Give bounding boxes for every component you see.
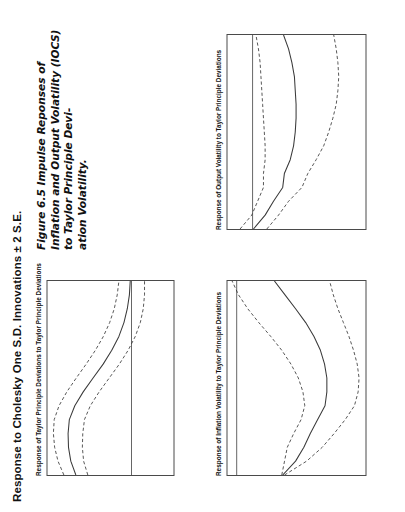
y-tickmark xyxy=(356,229,357,230)
x-tickmark xyxy=(173,378,174,379)
x-tickmark xyxy=(173,294,174,295)
y-tickmark xyxy=(335,229,336,230)
plot-area-0: .4.3.2.1.0-.1-.22468101214 xyxy=(46,280,174,476)
y-tickmark xyxy=(131,475,132,476)
x-tickmark xyxy=(365,433,366,434)
x-tickmark xyxy=(365,159,366,160)
x-tickmark xyxy=(365,104,366,105)
x-tickmark xyxy=(365,322,366,323)
figure-caption-line-1: Figure 6.5 Impulse Reponses of Inflation… xyxy=(34,14,75,250)
series-line-1 xyxy=(53,281,119,475)
series-line-2 xyxy=(284,281,359,475)
x-tickmark xyxy=(365,461,366,462)
series-line-0 xyxy=(68,281,130,475)
x-tickmark xyxy=(173,322,174,323)
x-tickmark xyxy=(365,215,366,216)
y-tickmark xyxy=(47,475,48,476)
x-tickmark xyxy=(365,378,366,379)
y-tickmark xyxy=(252,229,253,230)
y-tickmark xyxy=(305,475,306,476)
series-line-1 xyxy=(240,35,265,229)
series-line-0 xyxy=(253,35,296,229)
chart-title-2: Response of Output Volatility to Taylor … xyxy=(214,50,221,230)
y-tickmark xyxy=(231,229,232,230)
x-tickmark xyxy=(365,294,366,295)
x-tickmark xyxy=(173,433,174,434)
chart-panel-output-volatility: Response of Output Volatility to Taylor … xyxy=(214,26,392,254)
x-tickmark xyxy=(173,350,174,351)
y-tickmark xyxy=(273,229,274,230)
figure-caption-line-2: ation Volatility. xyxy=(75,14,89,250)
figure-caption: Figure 6.5 Impulse Reponses of Inflation… xyxy=(34,14,88,250)
y-tickmark xyxy=(328,475,329,476)
chart-canvas-0 xyxy=(47,281,173,475)
y-tickmark xyxy=(152,475,153,476)
chart-title-1: Response of Inflation Volatility to Tayl… xyxy=(214,292,221,476)
chart-panel-taylor-principle-deviations: Response of Taylor Principle Deviations … xyxy=(34,272,194,500)
plot-area-2: .05.00-.05-.10-.15-.20-.252468101214 xyxy=(226,34,366,230)
plot-area-1: .00-.05-.10-.15-.20-.252468101214 xyxy=(226,280,366,476)
y-tickmark xyxy=(89,475,90,476)
y-tickmark xyxy=(173,475,174,476)
series-line-2 xyxy=(266,35,338,229)
y-tickmark xyxy=(236,475,237,476)
chart-panel-inflation-volatility: Response of Inflation Volatility to Tayl… xyxy=(214,272,392,500)
x-tickmark xyxy=(365,48,366,49)
y-tickmark xyxy=(293,229,294,230)
x-tickmark xyxy=(365,350,366,351)
y-tickmark xyxy=(282,475,283,476)
figure-heading: Response to Cholesky One S.D. Innovation… xyxy=(10,211,22,502)
series-line-1 xyxy=(232,281,305,475)
x-tickmark xyxy=(365,187,366,188)
x-tickmark xyxy=(365,132,366,133)
chart-title-0: Response of Taylor Principle Deviations … xyxy=(34,263,41,476)
x-tickmark xyxy=(365,405,366,406)
series-line-2 xyxy=(82,281,144,475)
y-tickmark xyxy=(68,475,69,476)
series-line-0 xyxy=(274,281,326,475)
scanned-page: Response to Cholesky One S.D. Innovation… xyxy=(0,0,405,512)
y-tickmark xyxy=(110,475,111,476)
y-tickmark xyxy=(314,229,315,230)
y-tickmark xyxy=(259,475,260,476)
chart-canvas-2 xyxy=(227,35,365,229)
y-tickmark xyxy=(351,475,352,476)
x-tickmark xyxy=(365,76,366,77)
chart-canvas-1 xyxy=(227,281,365,475)
x-tickmark xyxy=(173,405,174,406)
x-tickmark xyxy=(173,461,174,462)
